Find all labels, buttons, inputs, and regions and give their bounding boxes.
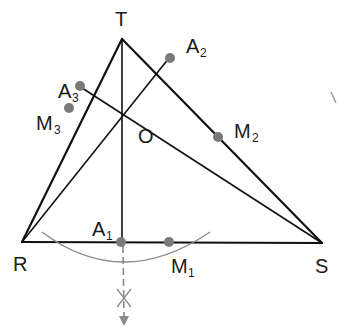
point-M1	[164, 237, 174, 247]
label-M3-sub: 3	[54, 123, 61, 137]
label-A2-sub: 2	[200, 46, 207, 60]
side-RT	[22, 39, 122, 242]
point-M2	[213, 132, 223, 142]
label-A3: A	[58, 80, 72, 102]
label-A1: A	[92, 218, 106, 240]
label-M3: M	[36, 112, 53, 134]
point-A3	[75, 81, 85, 91]
altitude-S-A3	[79, 86, 322, 243]
arrow-down-icon	[119, 316, 129, 326]
label-M1-sub: 1	[188, 266, 195, 280]
altitudes	[22, 39, 322, 243]
points	[64, 53, 223, 247]
label-T: T	[115, 8, 127, 30]
label-M2: M	[234, 120, 251, 142]
label-A1-sub: 1	[106, 229, 113, 243]
label-A2: A	[186, 35, 200, 57]
dashed-perpendicular	[123, 246, 124, 318]
label-M2-sub: 2	[252, 131, 259, 145]
point-A2	[165, 53, 175, 63]
label-M1: M	[171, 255, 188, 277]
triangle-diagram: T R S O A 1 M 1 A 2 M 2 A 3 M 3	[0, 0, 338, 330]
triangle-sides	[22, 39, 322, 243]
construction-marks	[42, 232, 210, 326]
altitude-R-A2	[22, 58, 169, 242]
label-O: O	[138, 125, 154, 147]
label-S: S	[315, 255, 328, 277]
stray-mark	[331, 92, 336, 103]
label-R: R	[13, 253, 27, 275]
label-A3-sub: 3	[72, 91, 79, 105]
point-A1	[116, 237, 126, 247]
